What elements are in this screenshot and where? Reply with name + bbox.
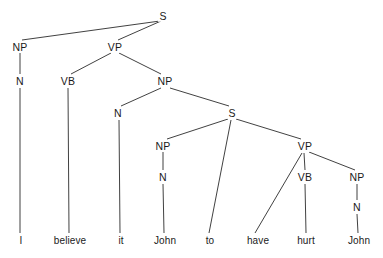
tree-edge-e-s-vp-emb [236, 119, 301, 139]
tree-node-vp-embedded: VP [296, 141, 313, 152]
tree-node-s-root: S [158, 11, 168, 22]
tree-edge-e-np-n-it [121, 88, 161, 106]
tree-terminal-word-have: have [245, 236, 270, 246]
tree-terminal-word-i: I [18, 236, 24, 246]
tree-edge-e-np-s [170, 88, 229, 106]
tree-terminal-word-it: it [117, 236, 125, 246]
tree-node-n-john2: N [352, 202, 363, 213]
tree-edge-e-vp-np-john2 [309, 152, 355, 170]
tree-edge-e-s-to [209, 120, 231, 233]
tree-terminal-word-john1: John [152, 236, 177, 246]
tree-node-np-subject: NP [11, 42, 29, 53]
tree-node-np-object: NP [156, 76, 174, 87]
tree-node-n-john1: N [158, 172, 169, 183]
tree-edge-e-n-it-word [119, 120, 120, 233]
tree-terminal-word-hurt: hurt [296, 236, 317, 246]
tree-edge-e-s-np-john [167, 119, 228, 139]
tree-node-vp-main: VP [106, 42, 123, 53]
tree-node-n-it: N [113, 108, 124, 119]
tree-node-np-john2: NP [348, 172, 366, 183]
syntax-tree-figure: SNPVPNVBNPNSNPVPNVBNPN IbelieveitJohntoh… [0, 0, 383, 258]
tree-edge-e-vp-vb [71, 53, 111, 74]
tree-edge-e-vp-np [119, 53, 161, 74]
tree-terminal-word-believe: believe [52, 236, 87, 246]
tree-node-n-i: N [15, 76, 26, 87]
tree-edge-e-vp-vb-hurt [304, 153, 305, 170]
tree-node-np-john1: NP [154, 141, 172, 152]
tree-edge-e-n-john2-word [357, 214, 358, 233]
tree-node-s-embedded: S [227, 108, 237, 119]
tree-edges-layer [0, 0, 383, 258]
tree-edge-e-vb-hurt-word [305, 184, 306, 233]
tree-terminal-word-john2: John [346, 236, 371, 246]
tree-terminal-word-to: to [204, 236, 216, 246]
tree-edge-e-n-john1-word [163, 184, 164, 233]
tree-edge-e-vp-have [255, 153, 302, 233]
tree-node-vb-hurt: VB [296, 172, 313, 183]
tree-edge-e-vb-believe [68, 88, 69, 233]
tree-node-vb-believe: VB [59, 76, 76, 87]
